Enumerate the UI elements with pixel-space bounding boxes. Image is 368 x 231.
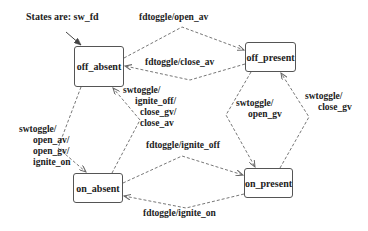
label-swtoggle-open-gv: swtoggle/ open_gv <box>236 98 282 120</box>
states-legend: States are: sw_fd <box>26 11 99 22</box>
state-label: on_absent <box>76 183 119 194</box>
label-swtoggle-ignite-off-close-gv-av: swtoggle/ ignite_off/ close_gv/ close_av <box>123 85 176 129</box>
state-label: on_present <box>245 178 292 189</box>
edge-on-present-to-on-absent <box>124 194 244 208</box>
label-fdtoggle-close-av: fdtoggle/close_av <box>145 57 214 68</box>
state-label: off_absent <box>77 61 121 72</box>
label-swtoggle-close-gv: swtoggle/ close_gv <box>305 91 352 113</box>
state-off-present: off_present <box>245 42 296 72</box>
transition-edges <box>0 0 368 231</box>
label-fdtoggle-open-av: fdtoggle/open_av <box>139 12 208 23</box>
state-off-absent: off_absent <box>74 46 124 87</box>
edge-on-absent-to-on-present <box>123 156 243 183</box>
state-on-absent: on_absent <box>73 173 123 203</box>
state-on-present: on_present <box>244 168 293 198</box>
label-swtoggle-open-av-gv-ignite-on: swtoggle/ open_av/ open_gv/ ignite_on <box>19 124 70 168</box>
edge-off-absent-to-off-present <box>124 27 244 58</box>
edge-on-present-to-off-present <box>280 73 309 168</box>
label-fdtoggle-ignite-on: fdtoggle/ignite_on <box>143 208 216 219</box>
state-label: off_present <box>246 52 294 63</box>
initial-state-arrow <box>66 32 81 45</box>
label-fdtoggle-ignite-off: fdtoggle/ignite_off <box>146 140 220 151</box>
